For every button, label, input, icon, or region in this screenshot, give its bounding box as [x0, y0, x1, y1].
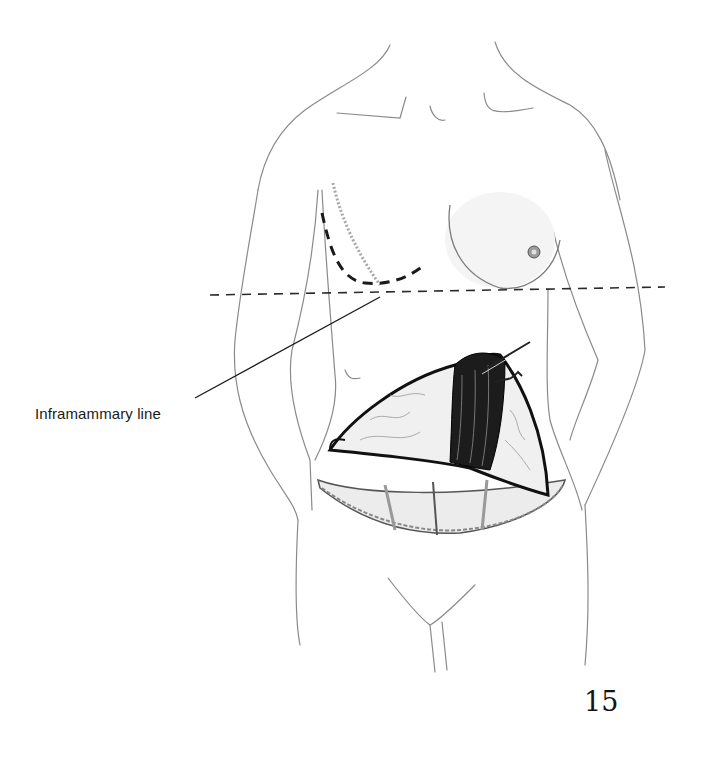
- page-number: 15: [584, 686, 618, 717]
- mastectomy-scar: [333, 183, 380, 285]
- abdomen-mark: [345, 370, 360, 379]
- right-arm-inner: [553, 230, 598, 440]
- left-arm-inner: [291, 190, 318, 510]
- label-leader-line: [195, 297, 380, 398]
- right-hip-outline: [585, 505, 588, 665]
- left-clavicle: [337, 97, 406, 118]
- torso-illustration: [0, 0, 705, 764]
- right-torso-side: [547, 290, 582, 510]
- right-arm-outer: [585, 150, 645, 505]
- right-shoulder-outline: [495, 42, 620, 200]
- inframammary-line-label: Inframammary line: [35, 405, 161, 422]
- left-arm-outer: [234, 190, 298, 520]
- left-shoulder-outline: [258, 45, 390, 190]
- right-clavicle: [484, 93, 533, 112]
- groin-outline: [388, 578, 475, 625]
- abdominal-flap: [318, 342, 565, 535]
- sternal-notch: [430, 106, 445, 120]
- document-page: Inframammary line 15: [0, 0, 705, 764]
- right-breast: [445, 192, 560, 288]
- thigh-gap-left: [430, 625, 435, 672]
- thigh-gap-right: [442, 622, 447, 670]
- inframammary-level-line: [210, 287, 665, 295]
- inframammary-dashed-contour: [322, 213, 423, 283]
- left-hip-outline: [296, 520, 300, 645]
